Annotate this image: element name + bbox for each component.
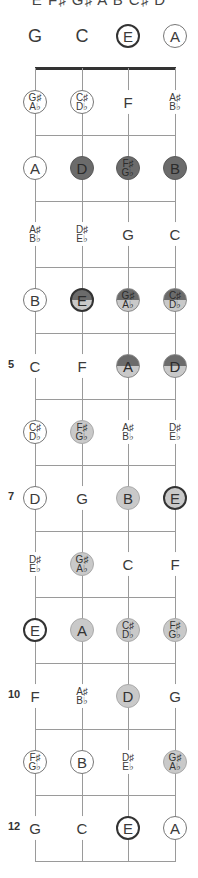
note-fret10-string-a: G (163, 684, 187, 708)
note-fret7-string-a: E (163, 486, 187, 510)
fret-wire-7 (35, 531, 176, 532)
fret-wire-8 (35, 597, 176, 598)
nut (35, 67, 176, 70)
note-fret2-string-c: D (70, 156, 94, 180)
note-fret1-string-c: C♯D♭ (70, 90, 94, 114)
fret-wire-2 (35, 201, 176, 202)
note-fret6-string-c: F♯G♭ (70, 420, 94, 444)
note-fret11-string-e: D♯E♭ (116, 750, 140, 774)
note-fret0-string-c: C (67, 23, 97, 49)
note-fret6-string-a: D♯E♭ (163, 420, 187, 444)
fret-wire-10 (35, 729, 176, 730)
note-fret10-string-g: F (23, 684, 47, 708)
note-fret2-string-e: F♯G♭ (116, 156, 140, 180)
note-fret8-string-e: C (116, 552, 140, 576)
note-fret0-string-a: A (163, 24, 187, 48)
note-fret4-string-a: C♯D♭ (163, 288, 187, 312)
note-fret12-string-g: G (23, 816, 47, 840)
fret-wire-12 (35, 861, 176, 862)
note-fret5-string-e: A (116, 354, 140, 378)
note-fret11-string-c: B (70, 750, 94, 774)
note-fret9-string-a: F♯G♭ (163, 618, 187, 642)
note-fret9-string-c: A (70, 618, 94, 642)
note-fret10-string-e: D (116, 684, 140, 708)
note-fret8-string-g: D♯E♭ (23, 552, 47, 576)
note-fret3-string-c: D♯E♭ (70, 222, 94, 246)
note-fret7-string-g: D (23, 486, 47, 510)
note-fret6-string-g: C♯D♭ (23, 420, 47, 444)
note-fret2-string-g: A (23, 156, 47, 180)
note-fret11-string-a: G♯A♭ (163, 750, 187, 774)
fret-wire-1 (35, 135, 176, 136)
note-fret0-string-e: E (116, 24, 140, 48)
note-fret9-string-g: E (23, 618, 47, 642)
note-fret12-string-e: E (116, 816, 140, 840)
note-fret1-string-g: G♯A♭ (23, 90, 47, 114)
note-fret4-string-c: E (70, 288, 94, 312)
note-fret3-string-a: C (163, 222, 187, 246)
fret-wire-3 (35, 267, 176, 268)
note-fret6-string-e: A♯B♭ (116, 420, 140, 444)
note-fret11-string-g: F♯G♭ (23, 750, 47, 774)
note-fret1-string-a: A♯B♭ (163, 90, 187, 114)
note-fret8-string-c: G♯A♭ (70, 552, 94, 576)
note-fret5-string-c: F (70, 354, 94, 378)
note-fret5-string-g: C (23, 354, 47, 378)
note-fret1-string-e: F (116, 90, 140, 114)
fret-number-10: 10 (8, 688, 22, 700)
fret-number-7: 7 (8, 490, 22, 502)
fret-wire-5 (35, 399, 176, 400)
fret-number-5: 5 (8, 358, 22, 370)
note-fret12-string-a: A (163, 816, 187, 840)
fret-wire-4 (35, 333, 176, 334)
fret-number-12: 12 (8, 820, 22, 832)
note-fret0-string-g: G (20, 23, 50, 49)
note-fret7-string-e: B (116, 486, 140, 510)
note-fret7-string-c: G (70, 486, 94, 510)
fret-wire-11 (35, 795, 176, 796)
fretboard-diagram: GCEAG♯A♭C♯D♭FA♯B♭ADF♯G♭BA♯B♭D♯E♭GCBEG♯A♭… (0, 0, 198, 878)
fret-wire-6 (35, 465, 176, 466)
note-fret3-string-g: A♯B♭ (23, 222, 47, 246)
fret-wire-9 (35, 663, 176, 664)
note-fret5-string-a: D (163, 354, 187, 378)
note-fret9-string-e: C♯D♭ (116, 618, 140, 642)
note-fret4-string-e: G♯A♭ (116, 288, 140, 312)
note-fret3-string-e: G (116, 222, 140, 246)
note-fret12-string-c: C (70, 816, 94, 840)
note-fret10-string-c: A♯B♭ (70, 684, 94, 708)
note-fret8-string-a: F (163, 552, 187, 576)
note-fret2-string-a: B (163, 156, 187, 180)
note-fret4-string-g: B (23, 288, 47, 312)
